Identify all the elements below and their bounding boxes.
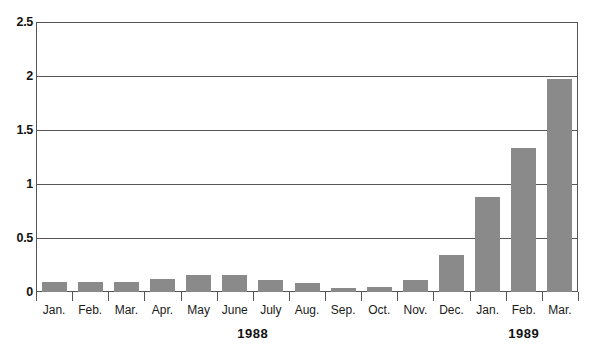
bar: [295, 283, 320, 292]
x-axis-tick-label: June: [222, 303, 248, 317]
x-axis-tick: [181, 292, 182, 301]
x-axis-tick: [108, 292, 109, 301]
bar: [547, 79, 572, 292]
bar: [475, 197, 500, 292]
y-axis-tick-label: 0: [3, 286, 33, 299]
x-axis-tick: [72, 292, 73, 301]
x-axis-tick-label: Mar.: [115, 303, 138, 317]
x-axis-tick-label: Dec.: [439, 303, 464, 317]
bars-layer: [36, 22, 578, 292]
x-axis-group-label: 1988: [237, 326, 268, 341]
x-axis-tick-label: Nov.: [403, 303, 427, 317]
y-axis-tick-label: 2: [3, 70, 33, 83]
bar: [222, 275, 247, 292]
x-axis-group-labels: 19881989: [36, 326, 578, 346]
bar-chart: 00.511.522.5 Jan.Feb.Mar.Apr.MayJuneJuly…: [0, 0, 591, 355]
bar: [150, 279, 175, 292]
x-axis-tick: [289, 292, 290, 301]
x-axis-tick: [325, 292, 326, 301]
x-axis-tick-label: Apr.: [152, 303, 173, 317]
y-axis-tick-label: 1.5: [3, 124, 33, 137]
x-axis-tick: [361, 292, 362, 301]
bar: [78, 282, 103, 292]
bar: [42, 282, 67, 292]
bar: [186, 275, 211, 292]
y-axis-tick-label: 1: [3, 178, 33, 191]
x-axis-tick-label: Sep.: [331, 303, 356, 317]
x-axis-tick: [217, 292, 218, 301]
x-axis-tick: [542, 292, 543, 301]
x-axis-tick: [36, 292, 37, 301]
x-axis-tick-label: Mar.: [548, 303, 571, 317]
x-axis-tick-label: May: [187, 303, 210, 317]
bar: [403, 280, 428, 292]
x-axis-tick: [506, 292, 507, 301]
x-axis-tick: [578, 292, 579, 301]
x-axis-tick-label: July: [260, 303, 281, 317]
bar: [258, 280, 283, 292]
x-axis-group-label: 1989: [508, 326, 539, 341]
x-axis-tick-label: Oct.: [368, 303, 390, 317]
x-axis-tick-label: Feb.: [78, 303, 102, 317]
x-axis-tick: [470, 292, 471, 301]
x-axis-tick-label: Feb.: [512, 303, 536, 317]
x-axis-tick: [433, 292, 434, 301]
y-axis-tick-label: 2.5: [3, 16, 33, 29]
y-axis-tick-labels: 00.511.522.5: [0, 0, 33, 355]
x-axis-tick-label: Jan.: [476, 303, 499, 317]
bar: [114, 282, 139, 292]
bar: [511, 148, 536, 292]
x-axis-tick-labels: Jan.Feb.Mar.Apr.MayJuneJulyAug.Sep.Oct.N…: [36, 303, 578, 321]
x-axis-tick: [253, 292, 254, 301]
bar: [439, 255, 464, 292]
x-axis-tick-label: Jan.: [43, 303, 66, 317]
y-axis-tick-label: 0.5: [3, 232, 33, 245]
x-axis-tick: [397, 292, 398, 301]
x-axis-tick-label: Aug.: [295, 303, 320, 317]
x-axis-tick: [144, 292, 145, 301]
x-axis-ticks: [36, 292, 578, 302]
